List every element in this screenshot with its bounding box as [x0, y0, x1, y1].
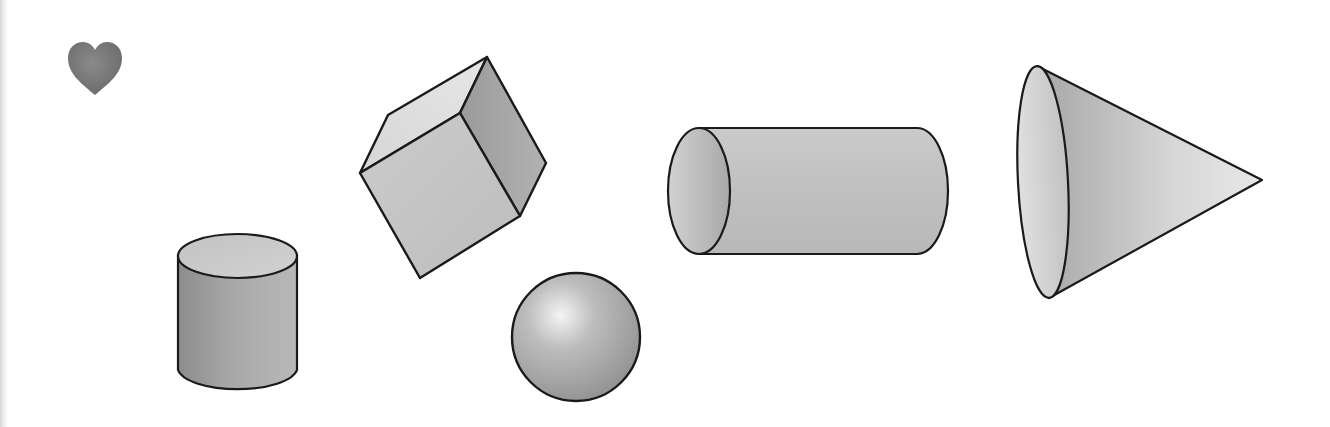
shapes-canvas [0, 0, 1330, 427]
cone-shape [1012, 65, 1262, 299]
cylinder-upright-shape [178, 234, 297, 389]
heart-icon [68, 42, 122, 95]
cylinder-horizontal-shape [668, 128, 948, 254]
sphere-shape [512, 273, 640, 401]
cube-shape [360, 57, 546, 278]
